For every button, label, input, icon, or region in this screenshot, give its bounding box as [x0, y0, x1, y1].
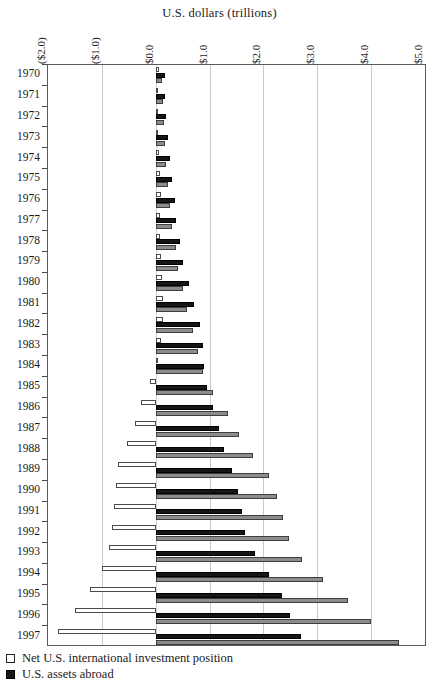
bar-net-position-1989 [118, 462, 156, 467]
bar-us-assets-1972 [156, 114, 167, 119]
x-tick-label: ($1.0) [83, 28, 119, 64]
bar-us-assets-1981 [156, 302, 195, 307]
bar-us-assets-1990 [156, 489, 238, 494]
bar-us-assets-1978 [156, 239, 180, 244]
bar-foreign-assets-1975 [156, 182, 168, 187]
x-tick-label: $2.0 [244, 28, 280, 64]
x-tick-label: $0.0 [137, 28, 173, 64]
y-tick-label-1972: 1972 [17, 110, 40, 122]
bar-foreign-assets-1995 [156, 598, 348, 603]
y-tick-label-1975: 1975 [17, 172, 40, 184]
y-tick-label-1984: 1984 [17, 359, 40, 371]
bar-net-position-1985 [150, 379, 156, 384]
bar-net-position-1986 [141, 400, 156, 405]
y-axis-tick [42, 625, 47, 626]
bar-foreign-assets-1989 [156, 473, 270, 478]
y-tick-label-1986: 1986 [17, 401, 40, 413]
bar-us-assets-1971 [156, 94, 166, 99]
y-tick-label-1991: 1991 [17, 505, 40, 517]
y-tick-label-1974: 1974 [17, 152, 40, 164]
y-axis-tick [42, 334, 47, 335]
y-axis-tick [42, 584, 47, 585]
x-tick-label: $5.0 [406, 28, 439, 64]
y-axis-tick [42, 376, 47, 377]
bar-net-position-1992 [112, 525, 156, 530]
bar-us-assets-1983 [156, 343, 203, 348]
chart-legend: Net U.S. international investment positi… [6, 650, 436, 682]
y-axis-tick [42, 64, 47, 65]
bar-us-assets-1988 [156, 447, 224, 452]
y-tick-label-1993: 1993 [17, 546, 40, 558]
y-tick-label-1996: 1996 [17, 609, 40, 621]
y-axis-tick [42, 147, 47, 148]
bar-foreign-assets-1973 [156, 141, 165, 146]
bar-us-assets-1977 [156, 218, 176, 223]
bar-foreign-assets-1983 [156, 349, 198, 354]
bar-net-position-1977 [156, 213, 160, 218]
legend-swatch-icon [6, 670, 15, 679]
bar-foreign-assets-1988 [156, 453, 253, 458]
y-tick-label-1994: 1994 [17, 567, 40, 579]
bar-net-position-1974 [156, 150, 159, 155]
bar-foreign-assets-1985 [156, 390, 213, 395]
bar-foreign-assets-1972 [156, 120, 165, 125]
bar-foreign-assets-1990 [156, 494, 278, 499]
bar-net-position-1983 [156, 338, 161, 343]
bar-us-assets-1994 [156, 572, 269, 577]
legend-item-1: U.S. assets abroad [6, 666, 436, 682]
y-axis-tick [42, 563, 47, 564]
y-axis-tick [42, 417, 47, 418]
x-axis-tick-labels: ($2.0)($1.0)$0.0$1.0$2.0$3.0$4.0$5.0 [0, 28, 439, 64]
chart-title: U.S. dollars (trillions) [0, 6, 439, 21]
y-tick-label-1985: 1985 [17, 380, 40, 392]
bar-net-position-1990 [116, 483, 155, 488]
legend-label: U.S. assets abroad [22, 667, 114, 682]
y-axis-tick [42, 459, 47, 460]
bar-foreign-assets-1997 [156, 640, 399, 645]
legend-item-0: Net U.S. international investment positi… [6, 650, 436, 666]
y-axis-tick [42, 106, 47, 107]
y-axis-tick [42, 251, 47, 252]
bar-foreign-assets-1992 [156, 536, 290, 541]
bar-foreign-assets-1996 [156, 619, 371, 624]
y-tick-label-1977: 1977 [17, 214, 40, 226]
bar-foreign-assets-1987 [156, 432, 239, 437]
y-tick-label-1971: 1971 [17, 89, 40, 101]
x-tick-label: $3.0 [298, 28, 334, 64]
y-tick-label-1989: 1989 [17, 463, 40, 475]
bar-net-position-1979 [156, 254, 161, 259]
plot-area [47, 64, 426, 646]
y-tick-label-1979: 1979 [17, 255, 40, 267]
y-axis-tick [42, 521, 47, 522]
x-tick-label: $1.0 [191, 28, 227, 64]
bar-us-assets-1993 [156, 551, 256, 556]
y-axis-tick [42, 168, 47, 169]
bar-foreign-assets-1982 [156, 328, 193, 333]
y-axis-tick [42, 480, 47, 481]
bar-us-assets-1976 [156, 198, 175, 203]
bar-net-position-1982 [156, 317, 164, 322]
bar-us-assets-1992 [156, 530, 245, 535]
bar-net-position-1971 [156, 88, 159, 93]
bar-us-assets-1989 [156, 468, 232, 473]
x-tick-label: $4.0 [352, 28, 388, 64]
y-tick-label-1988: 1988 [17, 443, 40, 455]
bar-net-position-1984 [156, 358, 158, 363]
bar-net-position-1981 [156, 296, 164, 301]
y-axis-tick [42, 189, 47, 190]
y-tick-label-1992: 1992 [17, 526, 40, 538]
y-axis-tick [42, 293, 47, 294]
bar-net-position-1988 [127, 441, 156, 446]
y-tick-label-1990: 1990 [17, 484, 40, 496]
y-axis-tick [42, 210, 47, 211]
y-axis-tick [42, 397, 47, 398]
bar-net-position-1976 [156, 192, 161, 197]
bar-net-position-1997 [58, 629, 156, 634]
bar-net-position-1987 [135, 421, 155, 426]
gridline [317, 65, 318, 645]
y-axis-tick [42, 313, 47, 314]
bar-foreign-assets-1979 [156, 266, 178, 271]
bar-us-assets-1982 [156, 322, 201, 327]
bar-foreign-assets-1993 [156, 557, 302, 562]
